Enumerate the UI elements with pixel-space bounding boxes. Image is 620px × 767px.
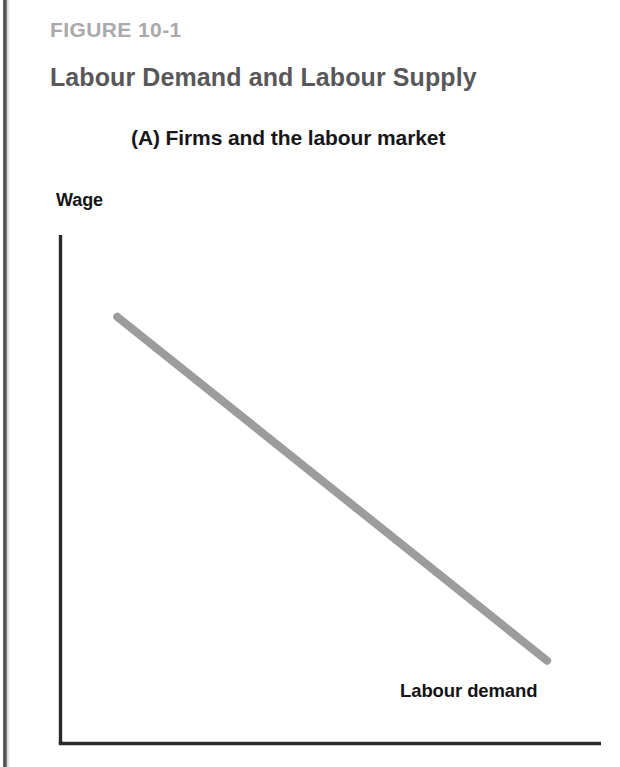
figure-page: FIGURE 10-1 Labour Demand and Labour Sup… [0,0,620,767]
chart-plot-area [0,0,620,767]
labour-demand-curve-label: Labour demand [400,680,537,702]
chart-svg [0,0,620,767]
labour-demand-curve [117,317,547,661]
